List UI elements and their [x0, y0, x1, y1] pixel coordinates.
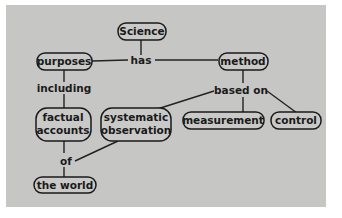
link-label-of: of: [60, 155, 72, 167]
node-label: purposes: [37, 55, 92, 67]
node-label-line1: systematic: [104, 111, 168, 123]
link-label-has: has: [131, 54, 152, 66]
node-systematic-observation: systematic observation: [101, 108, 172, 141]
edge-purposes-has: [92, 60, 128, 61]
node-label: Science: [119, 25, 164, 37]
node-measurement: measurement: [182, 112, 264, 129]
node-label: control: [275, 114, 317, 126]
concept-map: Science purposes method factual accounts…: [0, 0, 342, 218]
node-label: the world: [37, 179, 93, 191]
node-method: method: [219, 53, 268, 70]
node-label-line2: observation: [101, 124, 172, 136]
node-control: control: [271, 112, 321, 129]
node-label-line1: factual: [42, 111, 83, 123]
node-purposes: purposes: [37, 53, 92, 70]
node-label-line2: accounts: [37, 124, 90, 136]
edge-systematic-of: [75, 141, 118, 161]
node-label: measurement: [182, 114, 264, 126]
link-label-based-on: based on: [214, 84, 268, 96]
edge-basedon-control: [267, 91, 297, 113]
node-the-world: the world: [34, 177, 96, 193]
node-factual-accounts: factual accounts: [36, 108, 91, 141]
link-label-including: including: [37, 82, 91, 94]
node-science: Science: [118, 23, 166, 40]
node-label: method: [220, 55, 265, 67]
